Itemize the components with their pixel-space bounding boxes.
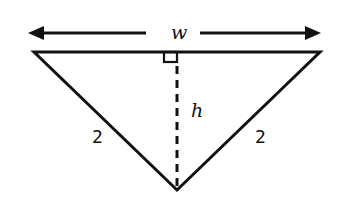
arrowhead-right-icon: [305, 26, 321, 40]
right-side-length-label: 2: [255, 128, 266, 146]
height-label: h: [191, 101, 203, 120]
width-label: w: [165, 23, 193, 42]
left-side-length-label: 2: [92, 128, 103, 146]
triangle-diagram: w h 2 2: [0, 0, 338, 204]
arrowhead-left-icon: [28, 26, 44, 40]
